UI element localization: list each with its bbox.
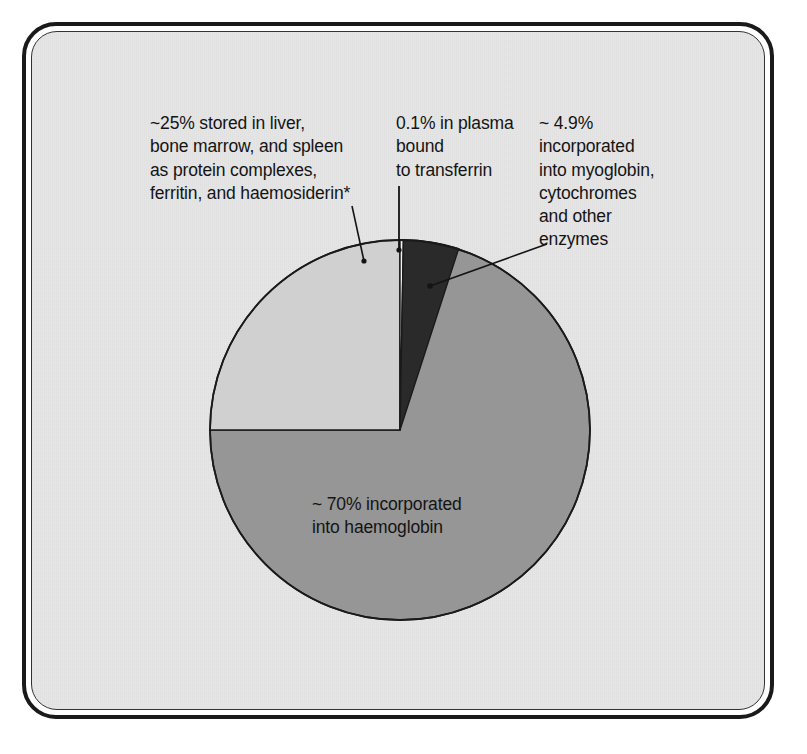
pie-slice-storage[interactable] <box>210 240 400 430</box>
leader-dot-myoglobin <box>427 283 433 289</box>
label-storage: ~25% stored in liver, bone marrow, and s… <box>150 112 390 205</box>
figure-page: ~25% stored in liver, bone marrow, and s… <box>0 0 807 754</box>
label-plasma-transferrin: 0.1% in plasma bound to transferrin <box>396 112 526 182</box>
leader-dot-transferrin <box>396 247 401 252</box>
label-haemoglobin: ~ 70% incorporated into haemoglobin <box>312 493 542 540</box>
label-myoglobin: ~ 4.9% incorporated into myoglobin, cyto… <box>539 112 689 252</box>
leader-dot-storage <box>361 258 366 263</box>
